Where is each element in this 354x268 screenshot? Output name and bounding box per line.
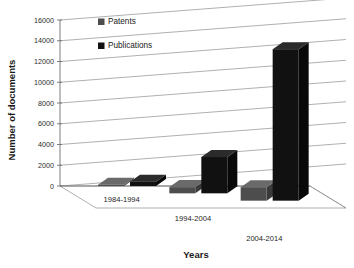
y-tick-label: 0 (50, 182, 54, 191)
y-tick-label: 2000 (38, 161, 54, 170)
legend-swatch-icon (98, 19, 105, 26)
legend-swatch-icon (98, 43, 105, 50)
x-category-label: 1984-1994 (104, 195, 140, 204)
y-tick-label: 16000 (34, 16, 54, 25)
legend-label: Patents (108, 17, 136, 26)
x-category-label: 1994-2004 (175, 214, 211, 223)
x-axis-title: Years (183, 249, 208, 260)
bar-chart-3d: 0200040006000800010000120001400016000 19… (0, 0, 354, 268)
y-tick-label: 10000 (34, 78, 54, 87)
bar-publications-1994-2004 (201, 150, 237, 193)
y-tick-label: 12000 (34, 57, 54, 66)
chart-container: 0200040006000800010000120001400016000 19… (0, 0, 354, 268)
x-category-label: 2004-2014 (246, 234, 282, 243)
y-tick-label: 8000 (38, 99, 54, 108)
legend-label: Publications (108, 41, 152, 50)
y-tick-label: 4000 (38, 140, 54, 149)
y-axis-title: Number of documents (6, 60, 17, 161)
y-tick-label: 14000 (34, 36, 54, 45)
bar-publications-2004-2014 (273, 42, 309, 200)
y-tick-label: 6000 (38, 119, 54, 128)
